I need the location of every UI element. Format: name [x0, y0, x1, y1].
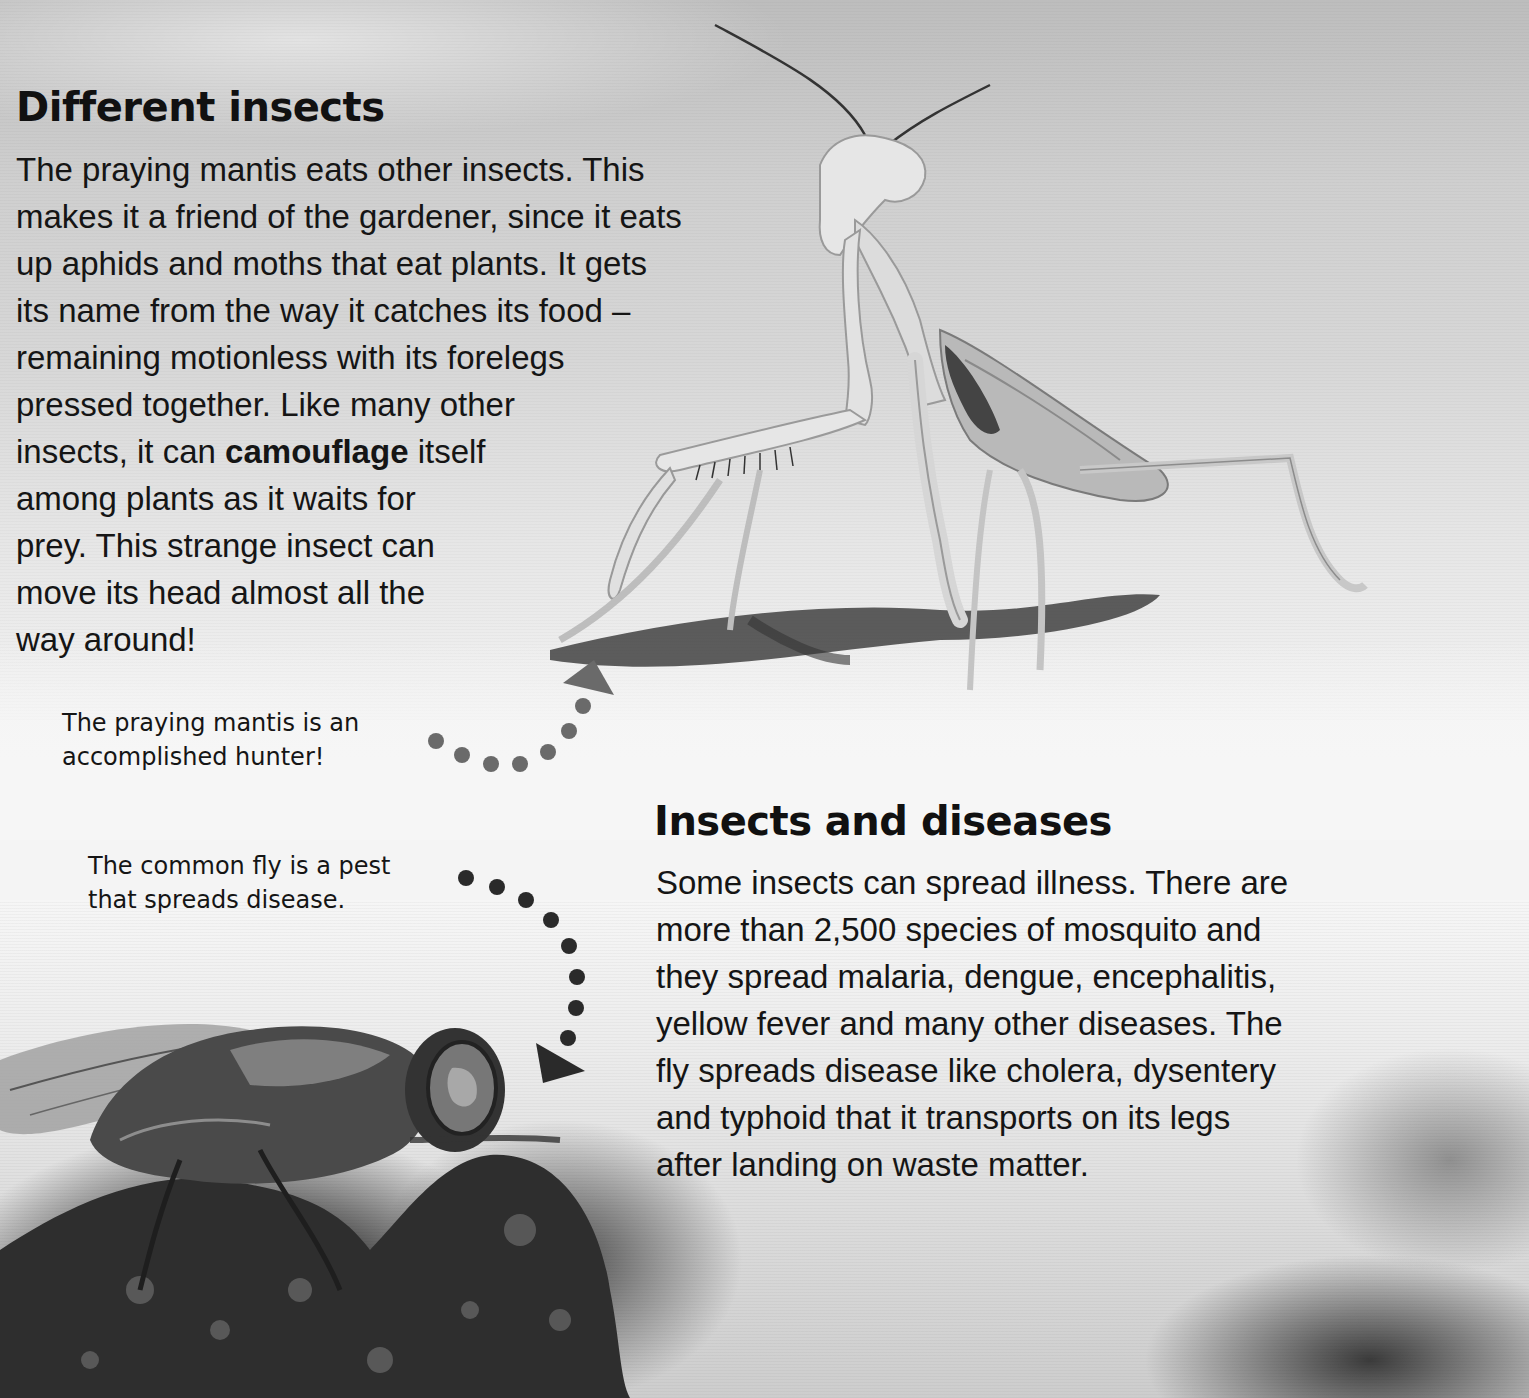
section-heading-insects-and-diseases: Insects and diseases: [654, 798, 1112, 844]
paragraph-line-camouflage: insects, it can camouflage itself: [16, 428, 682, 475]
paragraph-line: The praying mantis eats other insects. T…: [16, 146, 682, 193]
paragraph-line: up aphids and moths that eat plants. It …: [16, 240, 682, 287]
insects-and-diseases-paragraph: Some insects can spread illness. There a…: [656, 859, 1288, 1188]
mantis-caption: The praying mantis is an accomplished hu…: [62, 706, 359, 774]
fly-caption: The common fly is a pest that spreads di…: [88, 849, 390, 917]
caption-line: accomplished hunter!: [62, 740, 359, 774]
paragraph-line: after landing on waste matter.: [656, 1141, 1288, 1188]
paragraph-line: pressed together. Like many other: [16, 381, 682, 428]
paragraph-line: and typhoid that it transports on its le…: [656, 1094, 1288, 1141]
text-fragment: insects, it can: [16, 433, 225, 470]
section-heading-different-insects: Different insects: [16, 84, 385, 130]
fly-dotted-arrow-icon: [440, 850, 600, 1090]
keyword-camouflage: camouflage: [225, 433, 408, 470]
paragraph-line: prey. This strange insect can: [16, 522, 682, 569]
paragraph-line: more than 2,500 species of mosquito and: [656, 906, 1288, 953]
paragraph-line: Some insects can spread illness. There a…: [656, 859, 1288, 906]
text-fragment: itself: [408, 433, 485, 470]
paragraph-line: among plants as it waits for: [16, 475, 682, 522]
paragraph-line: makes it a friend of the gardener, since…: [16, 193, 682, 240]
paragraph-line: fly spreads disease like cholera, dysent…: [656, 1047, 1288, 1094]
caption-line: The common fly is a pest: [88, 849, 390, 883]
paragraph-line: remaining motionless with its forelegs: [16, 334, 682, 381]
caption-line: that spreads disease.: [88, 883, 390, 917]
mantis-dotted-arrow-icon: [420, 655, 620, 775]
paragraph-line: its name from the way it catches its foo…: [16, 287, 682, 334]
paragraph-line: they spread malaria, dengue, encephaliti…: [656, 953, 1288, 1000]
paragraph-line: move its head almost all the: [16, 569, 682, 616]
different-insects-paragraph: The praying mantis eats other insects. T…: [16, 146, 682, 663]
caption-line: The praying mantis is an: [62, 706, 359, 740]
paragraph-line: yellow fever and many other diseases. Th…: [656, 1000, 1288, 1047]
